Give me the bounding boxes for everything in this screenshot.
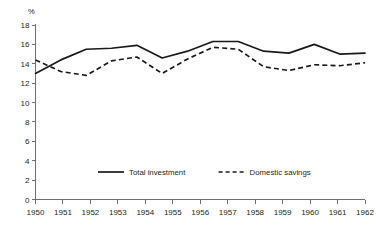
x-tick-label: 1960 xyxy=(301,208,319,217)
y-axis-unit-label: % xyxy=(28,7,35,16)
y-tick-label: 14 xyxy=(21,60,30,69)
x-tick-label: 1956 xyxy=(191,208,209,217)
line-chart: % 024681012141618 1950195119521953195419… xyxy=(0,0,376,229)
x-tick-label: 1959 xyxy=(274,208,292,217)
y-tick-label: 6 xyxy=(25,137,30,146)
y-tick-label: 16 xyxy=(21,40,30,49)
x-tick-label: 1952 xyxy=(82,208,100,217)
y-tick-label: 2 xyxy=(25,176,30,185)
series-line-domestic-savings xyxy=(36,47,366,75)
y-tick-label: 18 xyxy=(21,21,30,30)
x-tick-label: 1957 xyxy=(219,208,237,217)
y-axis-ticks: 024681012141618 xyxy=(21,21,36,205)
x-tick-label: 1962 xyxy=(356,208,374,217)
x-axis-ticks: 1950195119521953195419551956195719581959… xyxy=(27,200,375,217)
x-tick-label: 1958 xyxy=(246,208,264,217)
y-tick-label: 10 xyxy=(21,99,30,108)
x-tick-label: 1951 xyxy=(54,208,72,217)
legend-label-domestic-savings: Domestic savings xyxy=(250,168,311,177)
legend-label-total-investment: Total investment xyxy=(129,168,186,177)
x-tick-label: 1961 xyxy=(329,208,347,217)
y-tick-label: 4 xyxy=(25,157,30,166)
y-tick-label: 12 xyxy=(21,79,30,88)
y-tick-label: 0 xyxy=(25,196,30,205)
x-tick-label: 1955 xyxy=(164,208,182,217)
y-tick-label: 8 xyxy=(25,118,30,127)
series-group xyxy=(36,41,366,75)
x-tick-label: 1953 xyxy=(109,208,127,217)
chart-legend: Total investmentDomestic savings xyxy=(98,168,311,177)
chart-container: % 024681012141618 1950195119521953195419… xyxy=(0,0,376,229)
x-tick-label: 1954 xyxy=(136,208,154,217)
x-tick-label: 1950 xyxy=(27,208,45,217)
series-line-total-investment xyxy=(36,41,366,73)
